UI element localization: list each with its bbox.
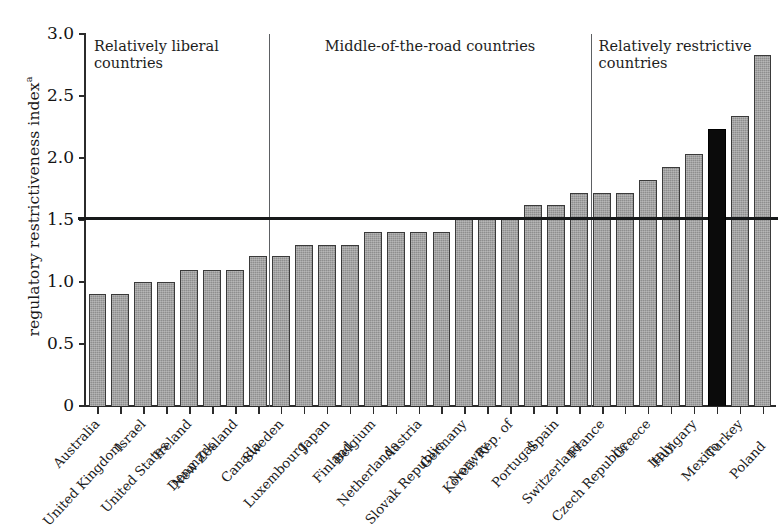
bar-norway bbox=[478, 219, 496, 406]
bar-sweden bbox=[272, 256, 290, 406]
bar-israel bbox=[134, 282, 152, 406]
bar-poland bbox=[754, 55, 772, 406]
section-divider bbox=[591, 34, 592, 407]
bar-greece bbox=[639, 180, 657, 406]
section-divider bbox=[269, 34, 270, 407]
reference-line bbox=[78, 217, 778, 220]
bar-korea-rep-of bbox=[501, 219, 519, 406]
bar-austria bbox=[410, 232, 428, 406]
bar-germany bbox=[455, 219, 473, 406]
bar-switzerland bbox=[570, 193, 588, 406]
bar-italy bbox=[662, 167, 680, 406]
bar-canada bbox=[249, 256, 267, 406]
bar-united-kingdom bbox=[111, 294, 129, 406]
bar-france bbox=[593, 193, 611, 406]
bar-denmark bbox=[203, 270, 221, 406]
bar-luxembourg bbox=[295, 245, 313, 406]
bar-czech-republic bbox=[616, 193, 634, 406]
bar-slovak-republic bbox=[433, 232, 451, 406]
bar-australia bbox=[89, 294, 107, 406]
bar-hungary bbox=[685, 154, 703, 406]
bar-finland bbox=[341, 245, 359, 406]
bar-netherlands bbox=[387, 232, 405, 406]
bar-new-zealand bbox=[226, 270, 244, 406]
bar-mexico bbox=[708, 129, 726, 406]
bar-turkey bbox=[731, 116, 749, 406]
bar-belgium bbox=[364, 232, 382, 406]
bar-spain bbox=[547, 205, 565, 406]
bar-united-states bbox=[157, 282, 175, 406]
bar-japan bbox=[318, 245, 336, 406]
chart-figure: regulatory restrictiveness indexa 00.51.… bbox=[0, 0, 784, 525]
bar-portugal bbox=[524, 205, 542, 406]
bar-ireland bbox=[180, 270, 198, 406]
